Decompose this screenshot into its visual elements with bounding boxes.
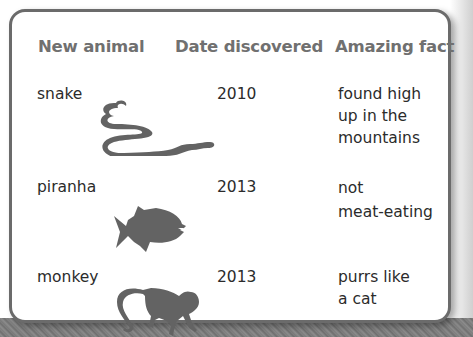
animal-discoveries-table: New animal Date discovered Amazing fact …	[9, 9, 451, 323]
row-snake-fact: found high up in the mountains	[338, 83, 421, 149]
row-snake-animal: snake	[37, 83, 82, 105]
fact-line: meat-eating	[338, 200, 433, 224]
snake-icon	[98, 100, 218, 156]
row-piranha-date: 2013	[217, 176, 256, 198]
row-monkey-fact: purrs like a cat	[338, 266, 410, 310]
fact-line: not	[338, 176, 433, 200]
header-new-animal: New animal	[38, 37, 145, 56]
piranha-icon	[112, 202, 188, 254]
header-amazing-fact: Amazing fact	[335, 37, 454, 56]
row-piranha-fact: not meat-eating	[338, 176, 433, 224]
monkey-icon	[115, 282, 203, 336]
fact-line: up in the	[338, 105, 421, 127]
fact-line: found high	[338, 83, 421, 105]
row-snake-date: 2010	[217, 83, 256, 105]
fact-line: mountains	[338, 127, 421, 149]
header-date-discovered: Date discovered	[175, 37, 323, 56]
fact-line: purrs like	[338, 266, 410, 288]
row-monkey-date: 2013	[217, 266, 256, 288]
row-monkey-animal: monkey	[37, 266, 99, 288]
row-piranha-animal: piranha	[37, 176, 96, 198]
fact-line: a cat	[338, 288, 410, 310]
